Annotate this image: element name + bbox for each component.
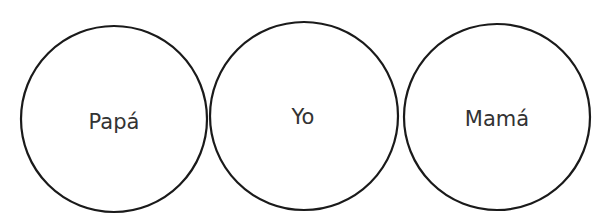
label-yo: Yo	[291, 105, 315, 129]
circle-yo: Yo	[210, 22, 398, 210]
family-diagram: Papá Yo Mamá	[0, 0, 604, 216]
circle-papa: Papá	[21, 26, 207, 212]
label-papa: Papá	[89, 110, 140, 134]
label-mama: Mamá	[465, 107, 529, 131]
circle-mama: Mamá	[404, 24, 590, 210]
